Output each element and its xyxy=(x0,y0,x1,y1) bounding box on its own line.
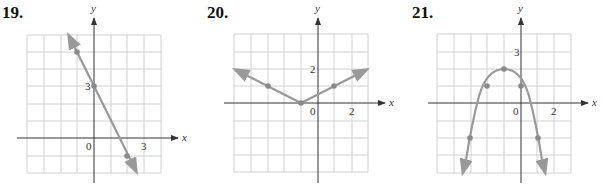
graph-20-plot: y x 0 2 2 xyxy=(200,0,410,185)
x-tick-label: 3 xyxy=(141,140,147,152)
origin-label: 0 xyxy=(310,105,316,117)
y-axis-label: y xyxy=(517,2,523,14)
y-tick-label: 3 xyxy=(514,46,520,58)
curve xyxy=(69,36,94,86)
x-axis-label: x xyxy=(591,96,597,108)
curve xyxy=(466,69,504,160)
origin-label: 0 xyxy=(86,140,92,152)
x-tick-label: 2 xyxy=(349,105,355,117)
graph-19: 19. y x 0 3 3 xyxy=(0,0,200,185)
graph-21-plot: y x 0 2 3 xyxy=(410,0,603,185)
y-axis-label: y xyxy=(314,2,320,14)
y-axis-label: y xyxy=(90,2,96,14)
origin-label: 0 xyxy=(513,105,519,117)
x-tick-label: 2 xyxy=(551,105,557,117)
x-axis-label: x xyxy=(181,131,187,143)
y-tick-label: 2 xyxy=(310,63,316,75)
graph-21: 21. y x 0 2 3 xyxy=(410,0,603,185)
x-axis-label: x xyxy=(388,96,394,108)
graph-19-plot: y x 0 3 3 xyxy=(0,0,200,185)
graph-20: 20. y x 0 2 2 xyxy=(200,0,410,185)
y-tick-label: 3 xyxy=(85,80,91,92)
